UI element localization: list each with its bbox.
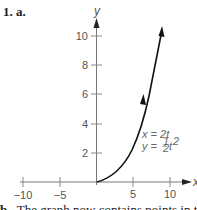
curve-end-arrow-icon — [159, 26, 165, 37]
x-tick-label: −10 — [14, 189, 33, 200]
y-tick-label: 4 — [82, 118, 88, 130]
y-tick-label: 10 — [76, 30, 88, 42]
y-tick-label: 8 — [82, 59, 88, 71]
x-tick-label: 10 — [164, 188, 176, 200]
part-b-text: b. The graph now contains points in th — [0, 202, 197, 210]
parametric-curve — [97, 30, 162, 182]
y-tick-label: 2 — [82, 147, 88, 159]
x-axis-arrow-icon — [182, 179, 192, 185]
svg-text:2: 2 — [172, 135, 179, 147]
part-b-label: b. — [0, 202, 10, 210]
x-tick-label: 5 — [130, 188, 136, 200]
svg-text:y =: y = — [141, 140, 158, 152]
curve-direction-arrow-icon — [140, 94, 146, 105]
y-tick-label: 6 — [82, 88, 88, 100]
y-axis-label: y — [93, 4, 101, 18]
y-axis-arrow-icon — [94, 18, 100, 28]
x-tick-label: −5 — [54, 189, 67, 200]
x-axis-label: x — [192, 175, 197, 189]
part-b-body: The graph now contains points in th — [17, 202, 197, 210]
parametric-graph: 10 8 6 4 2 −10 −5 5 10 y x x = 2t y = 1 … — [0, 0, 197, 200]
